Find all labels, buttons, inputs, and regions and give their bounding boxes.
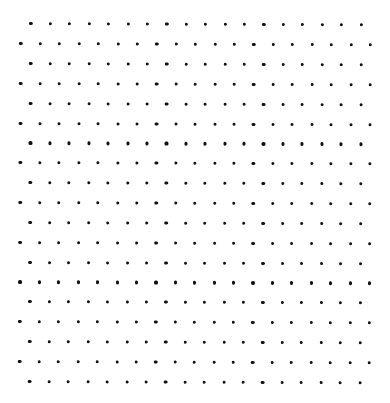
dot	[136, 43, 139, 46]
dot	[106, 301, 109, 304]
dot	[136, 82, 139, 85]
dot	[193, 202, 196, 205]
dot	[251, 321, 254, 324]
dot	[194, 43, 197, 46]
dot	[262, 142, 265, 145]
dot	[369, 123, 372, 126]
dot	[300, 381, 303, 384]
dot	[164, 380, 167, 383]
dot	[252, 122, 255, 125]
dot	[126, 102, 129, 105]
dot	[106, 261, 109, 264]
dot	[165, 102, 168, 105]
dot	[29, 221, 32, 224]
dot	[145, 380, 148, 383]
dot	[164, 341, 167, 344]
dot	[281, 182, 284, 185]
dot	[271, 361, 274, 364]
dot	[107, 62, 110, 65]
dot	[116, 42, 119, 45]
dot	[38, 360, 41, 363]
dot	[348, 321, 351, 324]
dot	[155, 43, 158, 46]
dot	[125, 340, 128, 343]
dot	[311, 43, 314, 46]
dot	[252, 83, 255, 86]
dot	[106, 181, 109, 184]
dot	[271, 242, 274, 245]
dot	[281, 341, 284, 344]
dot	[115, 320, 118, 323]
dot	[271, 281, 274, 284]
dot	[107, 23, 110, 26]
dot	[300, 222, 303, 225]
dot	[125, 301, 128, 304]
dot	[87, 261, 90, 264]
dot	[106, 221, 109, 224]
dot	[349, 162, 352, 165]
dot	[358, 381, 361, 384]
dot	[243, 23, 246, 26]
dot	[126, 142, 129, 145]
dot	[29, 141, 32, 144]
dot	[320, 301, 323, 304]
dot	[291, 43, 294, 46]
dot	[146, 62, 149, 65]
dot	[183, 380, 186, 383]
dot	[233, 83, 236, 86]
dot	[212, 361, 215, 364]
dot	[174, 241, 177, 244]
dot	[19, 42, 22, 45]
dot	[19, 82, 22, 85]
dot	[58, 122, 61, 125]
dot	[223, 182, 226, 185]
dot	[86, 340, 89, 343]
dot	[48, 300, 51, 303]
dot	[48, 142, 51, 145]
dot	[223, 222, 226, 225]
dot	[310, 242, 313, 245]
dot	[262, 222, 265, 225]
dot	[135, 281, 138, 284]
dot	[57, 281, 60, 284]
dot	[107, 142, 110, 145]
dot	[173, 360, 176, 363]
dot	[38, 201, 41, 204]
dot	[126, 221, 129, 224]
dot	[233, 122, 236, 125]
dot	[290, 321, 293, 324]
dot	[320, 103, 323, 106]
dot	[155, 162, 158, 165]
dot	[271, 122, 274, 125]
dot	[165, 23, 168, 26]
dot	[67, 261, 70, 264]
dot	[68, 102, 71, 105]
dot	[174, 321, 177, 324]
dot	[154, 241, 157, 244]
dot	[164, 261, 167, 264]
dot	[29, 22, 32, 25]
dot	[49, 62, 52, 65]
dot	[174, 122, 177, 125]
dot	[39, 42, 42, 45]
dot	[213, 281, 216, 284]
dot	[155, 82, 158, 85]
dot	[96, 360, 99, 363]
dot	[319, 341, 322, 344]
dot	[126, 182, 129, 185]
dot	[28, 380, 31, 383]
dot	[368, 321, 371, 324]
dot	[300, 301, 303, 304]
dot	[281, 261, 284, 264]
dot	[252, 202, 255, 205]
dot	[358, 341, 361, 344]
dot	[19, 241, 22, 244]
dot	[339, 222, 342, 225]
dot	[232, 361, 235, 364]
dot	[329, 202, 332, 205]
dot	[116, 122, 119, 125]
dot	[19, 161, 22, 164]
dot	[96, 281, 99, 284]
dot	[281, 103, 284, 106]
dot	[116, 201, 119, 204]
